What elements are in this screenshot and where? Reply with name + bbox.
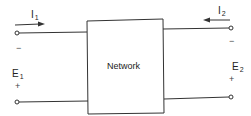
port1-bottom-terminal	[15, 100, 19, 104]
port1-top-wire	[19, 32, 87, 33]
current-subscript: 2	[222, 10, 226, 17]
current-arrow-left-icon	[203, 18, 230, 23]
port1-minus-sign: −	[16, 44, 21, 53]
voltage-subscript: 1	[20, 73, 24, 80]
voltage-subscript: 2	[240, 66, 244, 73]
voltage-symbol: E	[12, 68, 19, 79]
network-label: Network	[107, 62, 140, 71]
port1-plus-sign: +	[15, 82, 20, 91]
port2-top-wire	[163, 28, 229, 29]
current-i2-label: I2	[218, 6, 226, 16]
port2-bottom-terminal	[229, 95, 233, 99]
current-arrow-right-icon	[15, 22, 45, 27]
current-i1-label: I1	[31, 10, 39, 20]
current-subscript: 1	[35, 14, 39, 21]
port1-top-terminal	[15, 31, 19, 35]
port2-top-terminal	[229, 26, 233, 30]
voltage-e2-label: E2	[232, 62, 244, 72]
current-symbol: I	[218, 5, 221, 16]
port2-bottom-wire	[164, 97, 229, 99]
voltage-e1-label: E1	[12, 69, 24, 79]
port2-minus-sign: −	[229, 37, 234, 46]
port2-plus-sign: +	[229, 75, 234, 84]
current-symbol: I	[31, 9, 34, 20]
port1-bottom-wire	[19, 101, 88, 102]
voltage-symbol: E	[232, 61, 239, 72]
